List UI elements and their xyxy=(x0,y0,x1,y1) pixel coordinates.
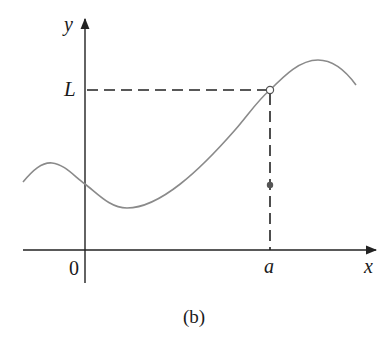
a-label: a xyxy=(264,256,274,276)
limit-diagram: y L 0 a x (b) xyxy=(0,0,386,341)
open-point-icon xyxy=(266,86,273,93)
origin-label: 0 xyxy=(69,258,79,278)
x-axis-label: x xyxy=(364,256,373,276)
figure-caption: (b) xyxy=(183,307,205,326)
limit-label: L xyxy=(64,79,76,100)
y-axis-label: y xyxy=(64,14,73,34)
filled-point-icon xyxy=(267,182,273,188)
diagram-svg xyxy=(0,0,386,341)
